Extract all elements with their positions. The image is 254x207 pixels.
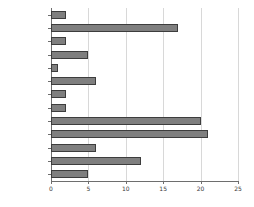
bar-france	[51, 130, 208, 138]
x-tick-10	[126, 181, 127, 184]
bar-row	[51, 114, 238, 127]
x-tick-5	[88, 181, 89, 184]
bar-denmark	[51, 144, 96, 152]
y-tick-8	[48, 121, 51, 122]
bar-germany	[51, 157, 141, 165]
bar-row	[51, 88, 238, 101]
bar-row	[51, 141, 238, 154]
x-tick-label-5: 5	[78, 186, 98, 192]
y-tick-10	[48, 148, 51, 149]
bar-italy	[51, 77, 96, 85]
bar-row	[51, 8, 238, 21]
x-tick-label-0: 0	[41, 186, 61, 192]
bar-row	[51, 48, 238, 61]
y-tick-1	[48, 28, 51, 29]
bar-portugal	[51, 37, 66, 45]
bar-luxembourg	[51, 64, 58, 72]
y-tick-5	[48, 81, 51, 82]
gridline-x-25	[238, 8, 239, 181]
bar-row	[51, 168, 238, 181]
y-tick-11	[48, 161, 51, 162]
bar-spain	[51, 24, 178, 32]
x-tick-label-25: 25	[228, 186, 248, 192]
y-tick-4	[48, 68, 51, 69]
y-tick-12	[48, 174, 51, 175]
y-tick-9	[48, 134, 51, 135]
bar-netherlands	[51, 51, 88, 59]
y-tick-7	[48, 108, 51, 109]
bar-row	[51, 75, 238, 88]
bar-row	[51, 101, 238, 114]
bar-row	[51, 154, 238, 167]
x-tick-15	[163, 181, 164, 184]
bar-row	[51, 35, 238, 48]
y-tick-3	[48, 55, 51, 56]
bar-belgium	[51, 170, 88, 178]
x-tick-0	[51, 181, 52, 184]
y-tick-2	[48, 41, 51, 42]
bar-ireland	[51, 90, 66, 98]
x-tick-label-10: 10	[116, 186, 136, 192]
bar-others	[51, 11, 66, 19]
y-tick-0	[48, 15, 51, 16]
x-tick-label-15: 15	[153, 186, 173, 192]
bar-row	[51, 61, 238, 74]
x-axis-line	[51, 181, 239, 182]
x-tick-label-20: 20	[191, 186, 211, 192]
bar-row	[51, 21, 238, 34]
bar-chart: 0510152025OthersSpainPortugalNetherlands…	[0, 0, 254, 207]
y-tick-6	[48, 94, 51, 95]
bar-greece	[51, 104, 66, 112]
bar-row	[51, 128, 238, 141]
x-tick-20	[201, 181, 202, 184]
x-tick-25	[238, 181, 239, 184]
bar-great-britain	[51, 117, 201, 125]
